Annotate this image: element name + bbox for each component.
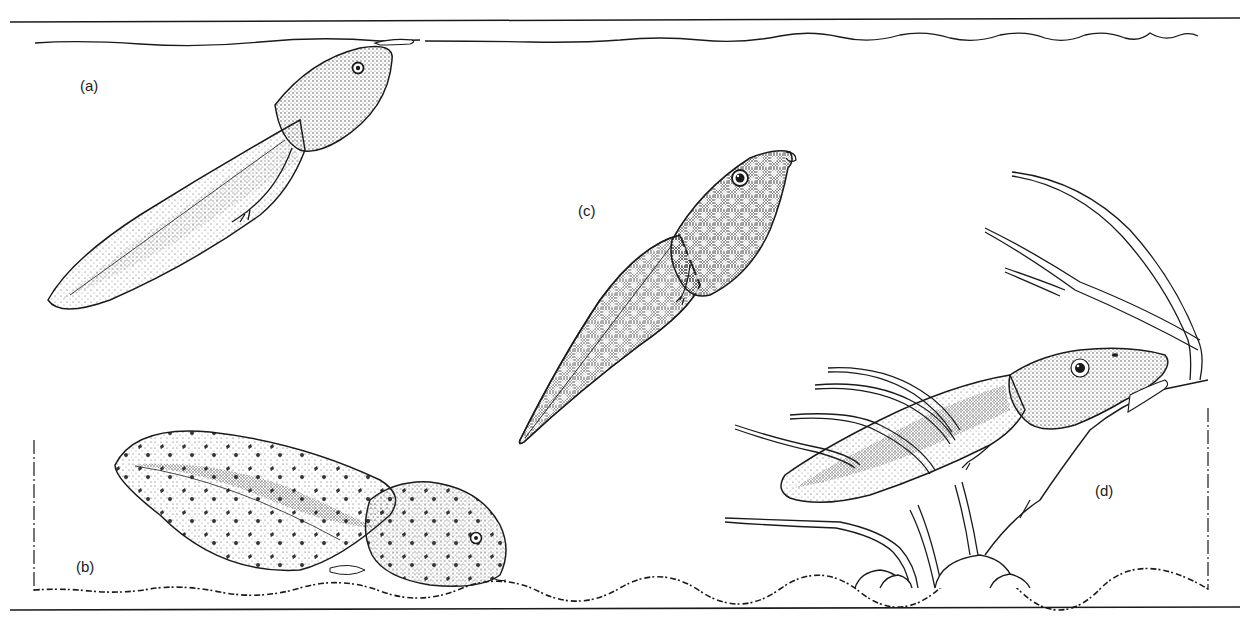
tadpole-a	[48, 39, 414, 309]
tadpole-c	[520, 151, 797, 444]
stones	[855, 555, 1030, 588]
tadpole-b	[115, 431, 506, 586]
label-a: (a)	[80, 77, 98, 94]
tadpole-illustration: (a) (b) (c) (d)	[0, 0, 1249, 629]
water-surface	[35, 33, 1198, 46]
label-d: (d)	[1095, 482, 1113, 499]
top-border-line	[10, 18, 1240, 22]
label-c: (c)	[578, 202, 596, 219]
label-b: (b)	[76, 558, 94, 575]
